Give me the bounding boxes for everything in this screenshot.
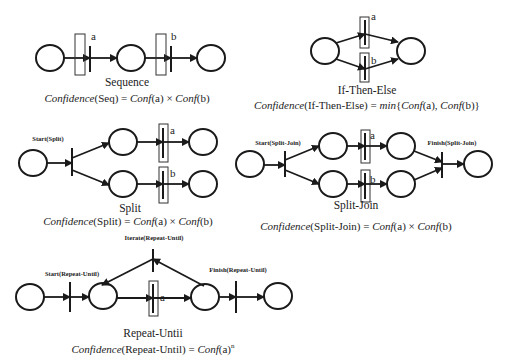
place xyxy=(264,283,292,309)
place xyxy=(387,133,415,159)
place xyxy=(89,283,117,309)
label-b: b xyxy=(170,167,176,179)
label-a: a xyxy=(160,291,165,303)
confidence-formula: Confidence(Seq) = Conf(a) × Conf(b) xyxy=(44,92,210,105)
place xyxy=(16,284,44,310)
activity-box-b xyxy=(156,34,166,75)
place xyxy=(109,129,137,155)
pattern-title: Split-Join xyxy=(334,199,379,212)
place xyxy=(189,171,217,197)
label-b: b xyxy=(370,173,376,185)
workflow-patterns-diagram: a b Sequence Confidence(Seq) = Conf(a) ×… xyxy=(0,0,507,360)
place xyxy=(117,45,145,71)
label-a: a xyxy=(371,10,376,22)
place xyxy=(236,151,264,177)
place xyxy=(197,45,225,71)
place xyxy=(36,45,64,71)
label-a: a xyxy=(170,124,175,136)
confidence-formula: Confidence(If-Then-Else) = min{Conf(a), … xyxy=(254,99,480,112)
split-join-pattern: Start(Split-Join) Finish(Split-Join) a b… xyxy=(236,129,492,233)
place xyxy=(387,171,415,197)
finish-label: Finish(Split-Join) xyxy=(428,139,477,147)
confidence-formula: Confidence(Repeat-Until) = Conf(a)n xyxy=(71,342,235,356)
activity-box-a xyxy=(75,34,85,75)
place xyxy=(189,129,217,155)
label-b: b xyxy=(171,30,177,42)
label-b: b xyxy=(371,54,377,66)
pattern-title: Repeat-Untii xyxy=(123,327,182,340)
place xyxy=(191,284,219,310)
iterate-label: Iterate(Repeat-Until) xyxy=(125,234,184,242)
label-a: a xyxy=(91,30,96,42)
label-a: a xyxy=(370,129,375,141)
repeat-until-pattern: Iterate(Repeat-Until) Start(Repeat-Until… xyxy=(16,234,292,356)
place xyxy=(109,171,137,197)
place xyxy=(319,133,347,159)
finish-label: Finish(Repeat-Until) xyxy=(209,266,266,274)
pattern-title: If-Then-Else xyxy=(338,84,397,96)
split-pattern: Start(Split) a b Split Confidence(Split)… xyxy=(19,124,217,228)
start-label: Start(Split) xyxy=(32,135,63,143)
place xyxy=(319,171,347,197)
place xyxy=(464,151,492,177)
confidence-formula: Confidence(Split) = Conf(a) × Conf(b) xyxy=(43,215,213,228)
start-label: Start(Split-Join) xyxy=(255,139,301,147)
if-then-else-pattern: a b If-Then-Else Confidence(If-Then-Else… xyxy=(254,10,480,112)
pattern-title: Sequence xyxy=(105,76,149,89)
start-label: Start(Repeat-Until) xyxy=(45,270,99,278)
sequence-pattern: a b Sequence Confidence(Seq) = Conf(a) ×… xyxy=(36,30,225,105)
pattern-title: Split xyxy=(119,202,142,215)
place xyxy=(397,38,425,64)
place xyxy=(19,150,47,176)
place xyxy=(311,38,339,64)
confidence-formula: Confidence(Split-Join) = Conf(a) × Conf(… xyxy=(260,220,452,233)
